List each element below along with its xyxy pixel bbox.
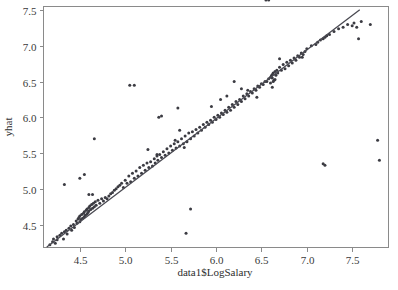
data-point xyxy=(146,162,149,165)
x-tick-label: 7.0 xyxy=(301,254,315,266)
data-point xyxy=(158,153,161,156)
data-point xyxy=(191,130,194,133)
data-point xyxy=(301,56,304,59)
data-point xyxy=(176,140,179,143)
data-point xyxy=(155,153,158,156)
data-point xyxy=(346,23,349,26)
figure-background xyxy=(0,0,398,290)
data-point xyxy=(378,159,381,162)
data-point xyxy=(271,86,274,89)
y-tick-label: 5.0 xyxy=(23,184,37,196)
data-point xyxy=(78,177,81,180)
y-axis-title: yhat xyxy=(2,118,14,137)
data-point xyxy=(274,78,277,81)
data-point xyxy=(69,225,72,228)
data-point xyxy=(157,116,160,119)
plot-canvas: 4.55.05.56.06.57.07.5 4.55.05.56.06.57.0… xyxy=(0,0,398,290)
data-point xyxy=(174,139,177,142)
data-point xyxy=(124,179,127,182)
data-point xyxy=(178,129,181,132)
data-point xyxy=(185,232,188,235)
x-tick-label: 5.5 xyxy=(165,254,179,266)
data-point xyxy=(360,20,363,23)
data-point xyxy=(96,199,99,202)
data-point xyxy=(285,61,288,64)
y-tick-label: 7.5 xyxy=(23,5,37,17)
data-point xyxy=(225,94,228,97)
y-tick-label: 6.0 xyxy=(23,112,37,124)
data-point xyxy=(83,173,86,176)
data-point xyxy=(357,37,360,40)
data-point xyxy=(183,146,186,149)
data-point xyxy=(128,84,131,87)
x-tick-label: 5.0 xyxy=(119,254,133,266)
x-axis-title: data1$LogSalary xyxy=(177,266,253,278)
data-point xyxy=(95,204,98,207)
data-point xyxy=(176,107,179,110)
data-point xyxy=(98,202,101,205)
data-point xyxy=(138,166,141,169)
data-point xyxy=(189,207,192,210)
data-point xyxy=(180,137,183,140)
data-point xyxy=(102,200,105,203)
data-point xyxy=(195,128,198,131)
data-point xyxy=(149,160,152,163)
data-point xyxy=(62,237,65,240)
data-point xyxy=(93,137,96,140)
data-point xyxy=(219,98,222,101)
data-point xyxy=(278,57,281,60)
y-tick-label: 4.5 xyxy=(23,220,37,232)
data-point xyxy=(127,174,130,177)
data-point xyxy=(162,150,165,153)
data-point xyxy=(94,200,97,203)
data-point xyxy=(202,123,205,126)
data-point xyxy=(369,23,372,26)
x-tick-label: 6.0 xyxy=(210,254,224,266)
scatter-plot-figure: 4.55.05.56.06.57.07.5 4.55.05.56.06.57.0… xyxy=(0,0,398,290)
data-point xyxy=(160,156,163,159)
data-point xyxy=(91,193,94,196)
data-point xyxy=(133,84,136,87)
data-point xyxy=(198,126,201,129)
data-point xyxy=(184,134,187,137)
data-point xyxy=(126,182,129,185)
data-point xyxy=(269,82,272,85)
data-point xyxy=(323,164,326,167)
data-point xyxy=(376,139,379,142)
data-point xyxy=(353,21,356,24)
data-point xyxy=(165,147,168,150)
data-point xyxy=(52,237,55,240)
data-point xyxy=(246,89,249,92)
x-tick-label: 6.5 xyxy=(255,254,269,266)
data-point xyxy=(142,164,145,167)
data-point xyxy=(169,144,172,147)
data-point xyxy=(63,183,66,186)
data-point xyxy=(278,66,281,69)
data-point xyxy=(337,27,340,30)
data-point xyxy=(160,114,163,117)
x-tick-label: 4.5 xyxy=(74,254,88,266)
data-point xyxy=(120,182,123,185)
data-point xyxy=(233,80,236,83)
data-point xyxy=(240,87,243,90)
data-point xyxy=(146,148,149,151)
data-point xyxy=(153,157,156,160)
data-point xyxy=(87,193,90,196)
data-point xyxy=(131,172,134,175)
data-point xyxy=(255,96,258,99)
data-point xyxy=(282,63,285,66)
data-point xyxy=(210,105,213,108)
data-point xyxy=(187,132,190,135)
y-tick-label: 7.0 xyxy=(23,41,37,53)
x-tick-label: 7.5 xyxy=(346,254,360,266)
data-point xyxy=(342,26,345,29)
data-point xyxy=(173,142,176,145)
data-point xyxy=(351,24,354,27)
data-point xyxy=(135,169,138,172)
data-point xyxy=(355,26,358,29)
y-tick-label: 5.5 xyxy=(23,148,37,160)
y-tick-label: 6.5 xyxy=(23,77,37,89)
